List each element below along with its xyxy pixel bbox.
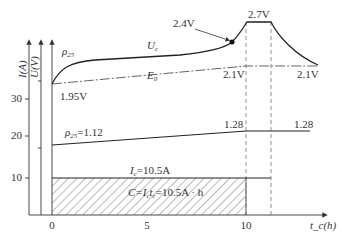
e0-mid-label: 2.1V: [223, 68, 245, 80]
rho-start-label: ρ25=1.12: [64, 126, 103, 140]
y-axis-label-voltage: U(V): [28, 56, 41, 78]
rho-end-label: 1.28: [294, 118, 314, 130]
ic-label: Ic=10.5A: [129, 164, 170, 178]
y-tick-30: 30: [11, 92, 23, 104]
x-tick-0: 0: [49, 219, 55, 231]
uc-series-label: Uc: [147, 39, 159, 53]
x-tick-10: 10: [241, 219, 253, 231]
e0-series-label: E0: [146, 69, 158, 83]
y-tick-20: 20: [11, 129, 23, 141]
rho-mid-label: 1.28: [224, 118, 244, 130]
uc-peak-label: 2.7V: [248, 8, 270, 20]
charging-characteristics-chart: 30 20 10 0 5 10 t_c(h) I(A) U(V) ρ25 1.9…: [0, 0, 343, 246]
uc-2-4v-label: 2.4V: [173, 17, 195, 29]
capacity-label: C=Ictc=10.5A · h: [128, 186, 204, 200]
y-tick-10: 10: [11, 171, 23, 183]
rho25-top-label: ρ25: [61, 45, 75, 59]
mark-2-4v: [230, 40, 235, 45]
x-tick-5: 5: [144, 219, 150, 231]
e0-end-label: 2.1V: [297, 68, 319, 80]
uc-start-label: 1.95V: [60, 90, 87, 102]
x-axis-label: t_c(h): [310, 219, 337, 232]
e0-line: [52, 66, 318, 84]
uc-curve: [52, 22, 318, 84]
